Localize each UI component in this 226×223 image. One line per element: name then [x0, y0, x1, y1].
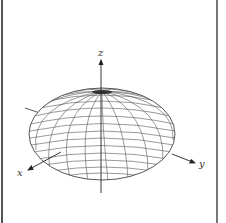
figure-frame: z x y: [0, 0, 226, 223]
y-axis: [172, 154, 195, 163]
ellipsoid-diagram: z x y: [0, 0, 226, 223]
y-axis-label: y: [198, 158, 205, 169]
x-axis-label: x: [17, 167, 23, 178]
z-axis-label: z: [97, 47, 104, 58]
ellipsoid-mesh: [29, 88, 175, 181]
